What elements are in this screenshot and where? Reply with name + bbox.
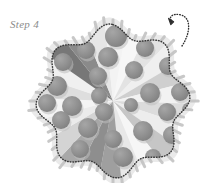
page-title: Step 4 [10, 18, 39, 30]
figure-root: Step 4 [0, 0, 212, 183]
